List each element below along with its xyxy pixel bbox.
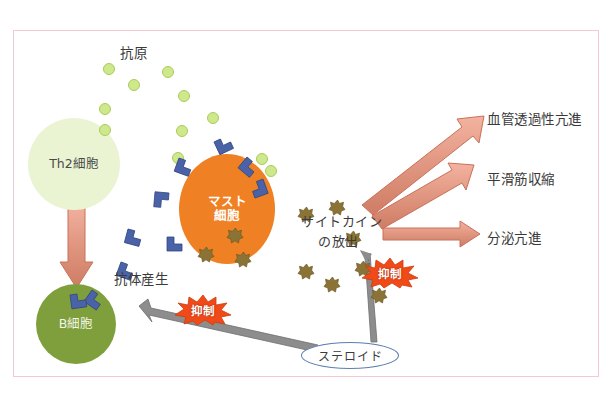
suppression-label: 抑制	[191, 302, 215, 318]
antigen-dot	[207, 112, 219, 124]
smooth-muscle-label: 平滑筋収縮	[487, 168, 555, 188]
antigen-label: 抗原	[120, 42, 147, 62]
steroid-node: ステロイド	[301, 342, 399, 369]
antibody-production-label: 抗体産生	[114, 268, 168, 288]
b-cell-label: B細胞	[59, 317, 94, 331]
antigen-dot	[99, 124, 111, 136]
th2-cell-label: Th2細胞	[49, 157, 99, 171]
steroid-label: ステロイド	[318, 347, 383, 364]
suppression-burst-cytokine: 抑制	[362, 258, 418, 288]
antigen-dot	[256, 153, 268, 165]
secretion-increase-label: 分泌亢進	[487, 227, 541, 247]
antigen-dot	[172, 152, 184, 164]
vascular-permeability-label: 血管透過性亢進	[487, 108, 582, 128]
antigen-dot	[162, 66, 174, 78]
mast-cell-label-line1: マスト	[208, 195, 247, 209]
mast-cell: マスト 細胞	[179, 154, 275, 264]
suppression-burst-antibody: 抑制	[175, 295, 231, 325]
mast-cell-label-line2: 細胞	[208, 209, 247, 223]
antigen-dot	[128, 79, 140, 91]
antigen-dot	[99, 103, 111, 115]
cytokine-release-label-line2: の放出	[318, 231, 359, 250]
b-cell: B細胞	[36, 284, 116, 364]
suppression-label: 抑制	[378, 265, 402, 281]
antigen-dot	[178, 90, 190, 102]
antigen-dot	[103, 63, 115, 75]
antigen-dot	[265, 165, 277, 177]
antigen-dot	[176, 125, 188, 137]
cytokine-release-label-line1: サイトカイン	[301, 211, 382, 230]
diagram-canvas: Th2細胞 B細胞 マスト 細胞	[0, 0, 613, 402]
